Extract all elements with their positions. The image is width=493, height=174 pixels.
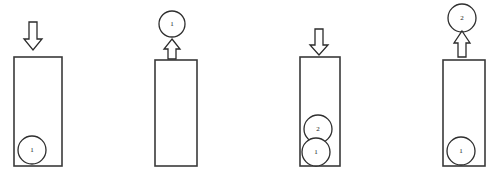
ball-label: 2	[460, 14, 464, 22]
up-arrow-icon	[164, 39, 180, 59]
ball-label: 1	[170, 20, 174, 28]
down-arrow-icon	[24, 22, 42, 50]
ball-1: 1	[18, 136, 46, 164]
stack-operations-figure: 1 1 2 1	[0, 0, 493, 174]
ball-label: 1	[314, 148, 318, 156]
ball-1: 1	[447, 137, 475, 165]
ball-2-ejected: 2	[448, 4, 476, 32]
ball-label: 2	[316, 125, 320, 133]
panel-pop-ball-2: 2 1	[443, 4, 485, 166]
panel-pop-ball-1: 1	[155, 11, 197, 166]
tube-container	[155, 60, 197, 166]
up-arrow-icon	[454, 31, 470, 57]
down-arrow-icon	[310, 29, 328, 55]
ball-1-ejected: 1	[159, 11, 185, 37]
ball-label: 1	[30, 146, 34, 154]
panel-push-ball-2: 2 1	[300, 29, 340, 166]
ball-1: 1	[302, 138, 330, 166]
panel-push-ball-1: 1	[14, 22, 62, 166]
ball-label: 1	[459, 147, 463, 155]
